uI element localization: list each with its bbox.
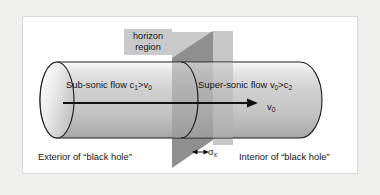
velocity-label: v0 bbox=[267, 102, 275, 114]
interior-region-label: Interior of “black hole” bbox=[239, 152, 330, 163]
horizon-region-line2: region bbox=[126, 42, 170, 53]
super-sonic-subscript-2: 2 bbox=[289, 84, 293, 91]
sub-sonic-subscript-2: 0 bbox=[148, 84, 152, 91]
horizon-region-line1: horizon bbox=[133, 31, 163, 41]
diagram-canvas bbox=[0, 0, 380, 195]
velocity-subscript: 0 bbox=[272, 106, 276, 113]
figure-container: horizon region Sub-sonic flow c1>v0 Supe… bbox=[0, 0, 380, 195]
super-sonic-flow-text: Super-sonic flow v bbox=[198, 79, 275, 90]
sub-sonic-flow-label: Sub-sonic flow c1>v0 bbox=[66, 80, 152, 92]
sigma-x-label: σx bbox=[208, 147, 217, 158]
super-sonic-relation: >c bbox=[278, 79, 288, 90]
horizon-region-label: horizon region bbox=[124, 29, 172, 55]
sub-sonic-relation: >v bbox=[138, 79, 148, 90]
sigma-subscript: x bbox=[214, 151, 217, 158]
sub-sonic-flow-text: Sub-sonic flow c bbox=[66, 79, 134, 90]
exterior-region-label: Exterior of “black hole” bbox=[38, 152, 132, 163]
super-sonic-flow-label: Super-sonic flow v0>c2 bbox=[198, 80, 292, 92]
